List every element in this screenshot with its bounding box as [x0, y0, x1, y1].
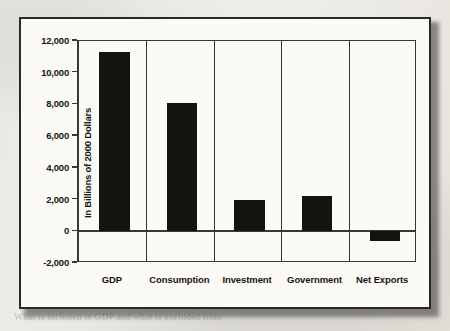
y-axis-tick-label: 0 [64, 225, 69, 236]
y-axis-tick [72, 261, 77, 262]
category-separator [146, 41, 147, 261]
x-axis-category-label: GDP [102, 274, 122, 285]
y-axis-tick-label: 2,000 [46, 193, 69, 204]
y-axis-tick-label: 10,000 [41, 66, 69, 77]
figure-frame: In Billions of 2000 Dollars 12,00010,000… [19, 17, 431, 309]
x-axis-category-label: Government [287, 274, 342, 285]
y-axis-tick [72, 134, 77, 135]
x-axis-category-label: Net Exports [356, 274, 408, 285]
y-axis-tick-label: -2,000 [43, 257, 69, 268]
category-separator [214, 41, 215, 261]
y-axis-tick [72, 166, 77, 167]
category-separator [281, 41, 282, 261]
bar-investment [234, 200, 264, 231]
y-axis-tick-label: 8,000 [46, 98, 69, 109]
bar-government [302, 196, 332, 231]
y-axis-tick-label: 12,000 [41, 35, 69, 46]
scanned-page-background: the value of the final good or service p… [0, 0, 450, 331]
y-axis-tick [72, 198, 77, 199]
x-axis-category-label: Investment [222, 274, 271, 285]
y-axis-tick [72, 71, 77, 72]
bar-consumption [167, 103, 197, 231]
plot-area [78, 40, 416, 262]
y-axis-tick [72, 39, 77, 40]
x-axis-category-label: Consumption [149, 274, 209, 285]
y-axis-tick [72, 103, 77, 104]
bar-chart: In Billions of 2000 Dollars 12,00010,000… [21, 19, 429, 307]
bar-gdp [99, 52, 129, 231]
bar-net-exports [370, 231, 400, 241]
y-axis-tick-label: 6,000 [46, 130, 69, 141]
y-axis-tick-label: 4,000 [46, 161, 69, 172]
category-separator [349, 41, 350, 261]
y-axis-tick [72, 230, 77, 231]
